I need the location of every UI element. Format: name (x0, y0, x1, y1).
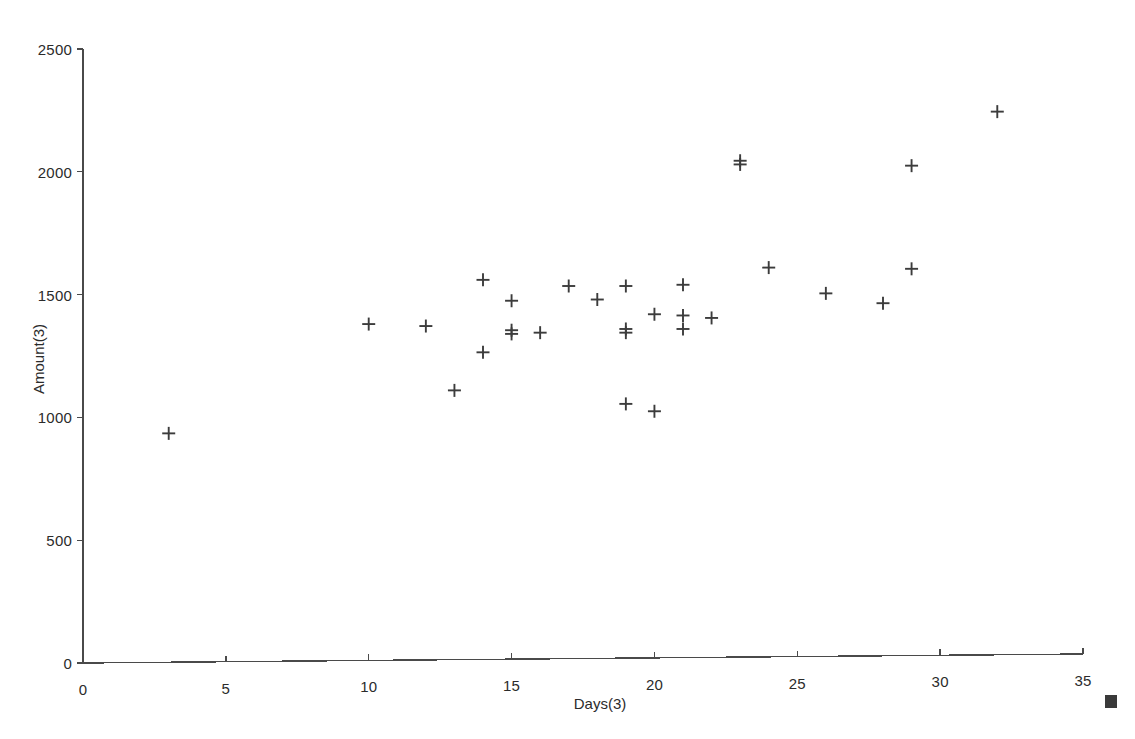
x-tick-label: 10 (360, 678, 377, 695)
data-point (905, 262, 918, 275)
data-point (505, 294, 518, 307)
data-point (591, 293, 604, 306)
data-point (762, 261, 775, 274)
data-point (677, 309, 690, 322)
data-point (648, 405, 661, 418)
x-axis-line (83, 654, 1083, 663)
x-tick-label: 35 (1074, 672, 1091, 689)
data-point (705, 311, 718, 324)
y-tick-label: 1500 (18, 286, 72, 303)
data-point (419, 320, 432, 333)
x-tick-label: 30 (932, 673, 949, 690)
data-point (619, 280, 632, 293)
x-tick-label: 5 (222, 680, 231, 697)
y-tick-label: 1000 (18, 409, 72, 426)
data-point (619, 397, 632, 410)
data-point (362, 318, 375, 331)
plot-area (0, 0, 1135, 739)
data-point (819, 287, 832, 300)
data-point (648, 308, 661, 321)
data-point (534, 326, 547, 339)
scatter-chart: 0500100015002000250005101520253035 Amoun… (0, 0, 1135, 739)
data-point (562, 280, 575, 293)
x-tick-label: 25 (789, 675, 806, 692)
data-point (677, 322, 690, 335)
data-point (905, 159, 918, 172)
data-point (991, 105, 1004, 118)
data-point (877, 297, 890, 310)
x-tick-label: 20 (646, 676, 663, 693)
y-tick-label: 2500 (18, 41, 72, 58)
data-point (162, 427, 175, 440)
x-tick-label: 0 (79, 681, 88, 698)
data-point (477, 273, 490, 286)
data-point (477, 346, 490, 359)
x-tick-label: 15 (503, 677, 520, 694)
y-tick-label: 2000 (18, 163, 72, 180)
x-axis-title: Days(3) (574, 695, 627, 712)
data-point (448, 384, 461, 397)
corner-square-icon (1105, 695, 1117, 708)
y-axis-title: Amount(3) (30, 324, 47, 394)
y-tick-label: 500 (18, 532, 72, 549)
y-tick-label: 0 (18, 655, 72, 672)
data-point (677, 278, 690, 291)
